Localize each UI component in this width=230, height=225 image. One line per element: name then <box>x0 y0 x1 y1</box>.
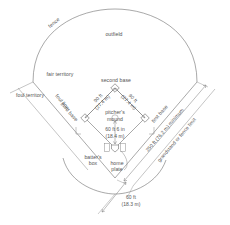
label-mound-distance-m: (18.4 m) <box>105 133 124 139</box>
label-mound-distance-ft: 60 ft 6 in <box>105 126 125 132</box>
label-home-plate-line2: plate <box>111 166 123 172</box>
field-drawing: fence outfield fair territory foul terri… <box>0 0 230 225</box>
baseball-field-diagram: fence outfield fair territory foul terri… <box>0 0 230 225</box>
foul-line-extension-lower-left <box>18 88 88 170</box>
label-baseline-first: 90 ft (27.4 m) <box>120 89 142 111</box>
label-pitchers-mound-line2: mound <box>107 116 123 122</box>
label-batters-box-line2: box <box>89 160 98 166</box>
label-outfield-minimum: 250 ft (76.2 m) minimum <box>144 107 185 153</box>
label-outfield: outfield <box>105 31 122 37</box>
home-plate-marker <box>112 145 119 152</box>
label-second-base: second base <box>101 77 131 83</box>
label-first-base: first base <box>150 104 169 124</box>
label-baseline-third: 90 ft (27.4 m) <box>89 89 111 111</box>
label-backstop-ft: 60 ft <box>126 194 137 200</box>
label-foul-territory: foul territory <box>16 92 44 98</box>
batters-box-right <box>121 144 126 152</box>
batters-box-left <box>105 144 110 152</box>
label-pitchers-mound-line1: pitcher's <box>105 109 125 115</box>
label-backstop-m: (18.3 m) <box>121 201 140 207</box>
label-fair-territory: fair territory <box>47 71 74 77</box>
